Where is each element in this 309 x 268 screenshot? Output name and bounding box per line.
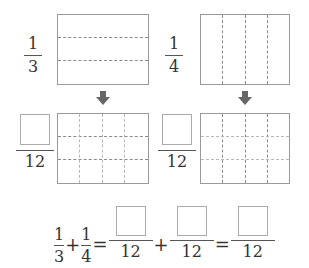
dashed-divider [245,114,246,183]
numerator-input-box[interactable] [177,206,207,236]
dashed-divider [58,60,148,61]
fraction-one-quarter: 1 4 [165,35,183,76]
equation: 1 3 + 1 4 = 12 + 12 = 12 [54,200,275,265]
dashed-divider [201,136,289,137]
term-blank-twelfths-2: 12 [170,206,214,260]
numerator: 1 [81,226,91,243]
denominator: 12 [243,243,263,260]
grid-twelfths-left [57,113,149,184]
dashed-divider [58,37,148,38]
dashed-divider [58,136,148,137]
plus-sign: + [154,234,169,255]
denominator: 12 [181,243,201,260]
dashed-divider [222,15,223,84]
term-blank-twelfths-1: 12 [109,206,153,260]
dashed-divider [102,114,103,183]
fraction-bar [158,150,196,151]
fraction-bar [231,240,275,241]
denominator: 12 [158,153,196,171]
denominator: 12 [120,243,140,260]
answer-fraction-right: 12 [158,114,196,171]
numerator-input-box[interactable] [20,114,50,145]
down-arrow-icon [96,91,110,105]
numerator-input-box[interactable] [162,114,192,145]
dashed-divider [267,114,268,183]
numerator: 1 [54,226,64,243]
denominator: 3 [54,248,64,265]
fraction-bar [165,55,183,56]
dashed-divider [222,114,223,183]
fraction-one-third: 1 3 [24,35,42,76]
denominator: 12 [16,153,54,171]
down-arrow-icon [238,91,252,105]
plus-sign: + [65,234,80,255]
denominator: 4 [165,58,183,76]
rectangle-thirds [57,14,149,85]
dashed-divider [124,114,125,183]
denominator: 3 [24,58,42,76]
denominator: 4 [81,248,91,265]
fraction-bar [54,245,64,246]
grid-twelfths-right [200,113,290,184]
dashed-divider [267,15,268,84]
numerator-input-box[interactable] [238,206,268,236]
term-one-third: 1 3 [54,226,64,265]
fraction-bar [81,245,91,246]
rectangle-quarters [200,14,290,85]
dashed-divider [245,15,246,84]
dashed-divider [58,159,148,160]
equals-sign: = [215,234,230,255]
numerator: 1 [24,35,42,53]
answer-fraction-left: 12 [16,114,54,171]
fraction-bar [170,240,214,241]
equals-sign: = [92,234,107,255]
numerator: 1 [165,35,183,53]
dashed-divider [201,159,289,160]
fraction-bar [16,150,54,151]
dashed-divider [79,114,80,183]
numerator-input-box[interactable] [116,206,146,236]
fraction-bar [24,55,42,56]
term-blank-twelfths-3: 12 [231,206,275,260]
term-one-quarter: 1 4 [81,226,91,265]
fraction-bar [109,240,153,241]
